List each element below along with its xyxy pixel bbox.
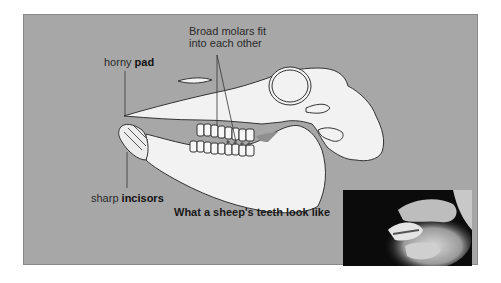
eye-orbit — [269, 67, 311, 105]
molars-label-line-1: Broad molars fit — [189, 25, 266, 37]
sharp-incisors-label: sharp incisors — [91, 192, 164, 204]
molars-label-line-2: into each other — [189, 37, 266, 49]
pad-label-bold: pad — [135, 56, 155, 68]
incisors-label-prefix: sharp — [91, 192, 122, 204]
incisors-label-bold: incisors — [122, 192, 164, 204]
molars-label: Broad molars fit into each other — [189, 25, 266, 49]
pad-label-prefix: horny — [104, 56, 135, 68]
photo-caption: What a sheep's teeth look like — [174, 206, 330, 218]
horny-pad-label: horny pad — [104, 56, 154, 68]
upper-molars — [197, 124, 254, 141]
incisors — [119, 124, 148, 160]
sheep-teeth-photo — [343, 190, 472, 266]
